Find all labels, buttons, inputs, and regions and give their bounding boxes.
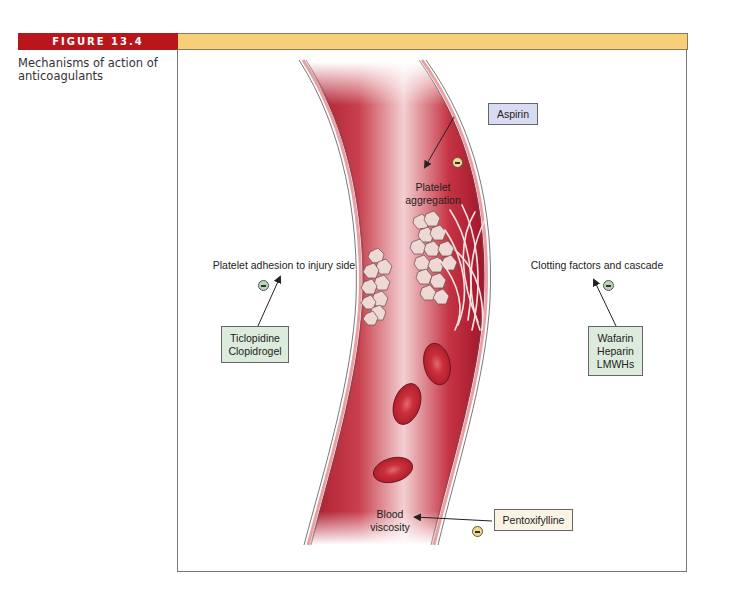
drug-name: Ticlopidine — [230, 332, 280, 345]
drug-box-adhesion-inhibitors: Ticlopidine Clopidrogel — [221, 326, 289, 363]
label-line: viscosity — [365, 521, 415, 534]
drug-name: Heparin — [597, 345, 634, 358]
label-line: Platelet — [398, 181, 468, 194]
label-line: Blood — [365, 508, 415, 521]
drug-box-aspirin: Aspirin — [488, 103, 538, 125]
drug-name: Pentoxifylline — [503, 514, 565, 527]
inhibition-icon-aspirin — [452, 157, 463, 168]
inhibition-icon-adhesion — [258, 280, 269, 291]
inhibition-icon-viscosity — [472, 526, 483, 537]
label-line: aggregation — [398, 194, 468, 207]
drug-name: Wafarin — [598, 332, 634, 345]
label-blood-viscosity: Blood viscosity — [365, 508, 415, 534]
drug-name: Aspirin — [497, 108, 529, 121]
drug-name: Clopidrogel — [228, 345, 281, 358]
label-platelet-adhesion: Platelet adhesion to injury side — [204, 259, 364, 272]
drug-box-clotting-inhibitors: Wafarin Heparin LMWHs — [588, 326, 643, 376]
inhibition-icon-clotting — [603, 280, 614, 291]
drug-box-pentoxifylline: Pentoxifylline — [494, 509, 573, 531]
drug-name: LMWHs — [597, 358, 634, 371]
label-platelet-aggregation: Platelet aggregation — [398, 181, 468, 207]
label-clotting-factors: Clotting factors and cascade — [522, 259, 672, 272]
